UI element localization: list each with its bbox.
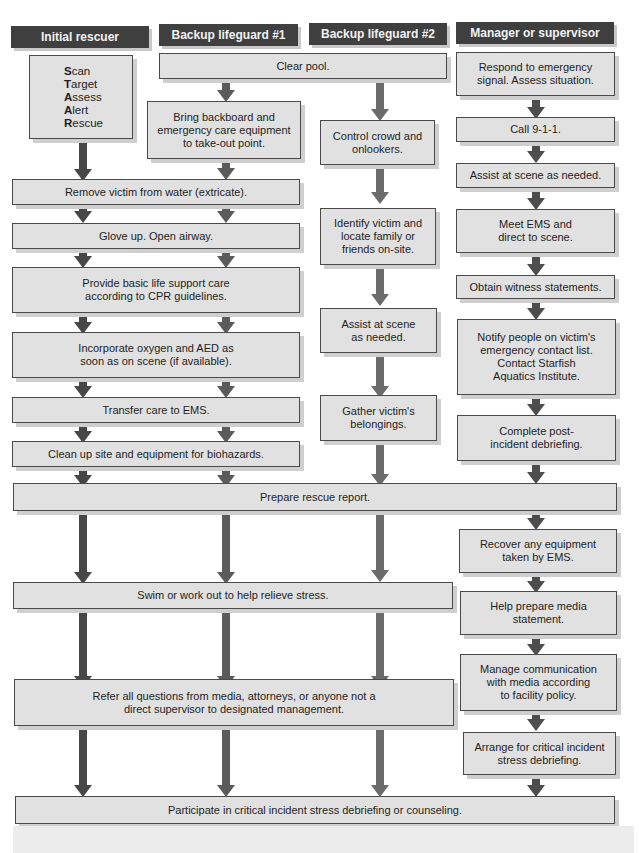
step-assist-scene-mgr: Assist at scene as needed. [456, 163, 615, 188]
step-assist-scene-bg2: Assist at scene as needed. [320, 308, 437, 353]
step-basic-life-support: Provide basic life support care accordin… [12, 267, 300, 313]
step-glove-up: Glove up. Open airway. [12, 223, 300, 249]
arrow-icon [527, 709, 545, 731]
footer-band [13, 826, 634, 853]
arrow-icon [217, 78, 235, 102]
arrow-icon [527, 508, 545, 530]
header-manager-supervisor: Manager or supervisor [456, 22, 614, 44]
star-item-assess: Assess [64, 91, 102, 104]
step-bring-backboard: Bring backboard and emergency care equip… [147, 101, 301, 159]
star-item-scan: Scan [64, 65, 90, 78]
step-control-crowd: Control crowd and onlookers. [320, 120, 435, 165]
arrow-icon [527, 460, 545, 484]
header-backup-lifeguard-2: Backup lifeguard #2 [309, 23, 447, 45]
arrow-icon [74, 203, 92, 223]
arrow-icon [527, 571, 545, 593]
arrow-icon [527, 394, 545, 416]
star-list: Scan Target Assess Alert Rescue [30, 56, 132, 138]
arrow-icon [217, 312, 235, 334]
arrow-icon [371, 510, 389, 582]
arrow-icon [74, 608, 92, 688]
arrow-icon [527, 634, 545, 656]
star-item-alert: Alert [64, 104, 88, 117]
step-clear-pool: Clear pool. [159, 53, 447, 79]
step-clean-up: Clean up site and equipment for biohazar… [12, 441, 300, 467]
arrow-icon [527, 141, 545, 163]
arrow-icon [217, 421, 235, 443]
arrow-icon [371, 608, 389, 688]
step-star-acronym: Scan Target Assess Alert Rescue [29, 55, 133, 139]
arrow-icon [74, 376, 92, 398]
header-label: Initial rescuer [41, 30, 119, 44]
arrow-icon [371, 264, 389, 306]
step-gather-belongings: Gather victim's belongings. [320, 395, 437, 441]
step-refer-questions: Refer all questions from media, attorney… [14, 679, 454, 726]
step-remove-victim: Remove victim from water (extricate). [12, 179, 300, 205]
arrow-icon [527, 298, 545, 320]
arrow-icon [74, 510, 92, 584]
header-label: Backup lifeguard #2 [321, 27, 435, 41]
step-meet-ems: Meet EMS and direct to scene. [456, 209, 615, 253]
arrow-icon [371, 77, 389, 121]
step-media-statement: Help prepare media statement. [460, 591, 617, 635]
step-swim-workout: Swim or work out to help relieve stress. [13, 582, 453, 609]
step-witness-statements: Obtain witness statements. [456, 275, 615, 299]
arrow-icon [217, 608, 235, 688]
step-transfer-care: Transfer care to EMS. [12, 397, 300, 423]
arrow-icon [371, 352, 389, 398]
step-respond-signal: Respond to emergency signal. Assess situ… [456, 52, 615, 96]
arrow-icon [527, 95, 545, 119]
arrow-icon [371, 164, 389, 204]
step-identify-victim: Identify victim and locate family or fri… [320, 208, 436, 265]
arrow-icon [527, 252, 545, 276]
step-notify-people: Notify people on victim's emergency cont… [457, 319, 616, 395]
arrow-icon [217, 158, 235, 180]
star-item-target: Target [64, 78, 97, 91]
step-manage-communication: Manage communication with media accordin… [460, 654, 617, 711]
arrow-icon [74, 248, 92, 268]
step-arrange-cisd: Arrange for critical incident stress deb… [463, 732, 616, 775]
header-initial-rescuer: Initial rescuer [11, 26, 149, 48]
step-recover-equipment: Recover any equipment taken by EMS. [459, 529, 617, 573]
star-item-rescue: Rescue [64, 117, 103, 130]
arrow-icon [527, 774, 545, 797]
step-prepare-report: Prepare rescue report. [13, 483, 617, 511]
header-label: Backup lifeguard #1 [171, 28, 285, 42]
step-complete-debrief: Complete post- incident debriefing. [457, 415, 616, 461]
arrow-icon [371, 440, 389, 486]
arrow-icon [217, 376, 235, 398]
arrow-icon [74, 421, 92, 443]
arrow-icon [217, 510, 235, 584]
header-label: Manager or supervisor [470, 26, 599, 40]
arrow-icon [74, 137, 92, 181]
arrow-icon [217, 248, 235, 268]
step-participate-cisd: Participate in critical incident stress … [15, 796, 615, 824]
arrow-icon [371, 725, 389, 797]
arrow-icon [217, 203, 235, 223]
header-backup-lifeguard-1: Backup lifeguard #1 [159, 24, 298, 46]
arrow-icon [74, 312, 92, 334]
step-call-911: Call 9-1-1. [456, 117, 615, 142]
step-oxygen-aed: Incorporate oxygen and AED as soon as on… [12, 332, 300, 378]
arrow-icon [217, 725, 235, 797]
arrow-icon [74, 725, 92, 797]
arrow-icon [527, 186, 545, 210]
